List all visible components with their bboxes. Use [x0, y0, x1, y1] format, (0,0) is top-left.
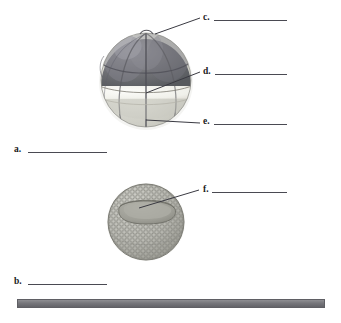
figure-canvas: a. b. c. d. e. f. [0, 0, 341, 323]
label-letter-a: a. [14, 144, 21, 154]
label-letter-b: b. [14, 276, 22, 286]
ground-bar [17, 299, 325, 308]
answer-rule-e[interactable] [214, 124, 287, 125]
leader-line-d [146, 72, 200, 93]
answer-rule-b[interactable] [28, 284, 107, 285]
answer-rule-a[interactable] [28, 152, 107, 153]
leader-line-e [146, 120, 200, 123]
label-letter-c: c. [203, 12, 210, 22]
answer-rule-c[interactable] [214, 20, 287, 21]
leader-line-f [139, 190, 199, 208]
answer-rule-f[interactable] [212, 192, 287, 193]
label-letter-e: e. [203, 116, 210, 126]
leader-lines-layer [0, 0, 341, 323]
label-letter-d: d. [203, 66, 211, 76]
answer-rule-d[interactable] [215, 74, 287, 75]
leader-line-c [155, 18, 200, 34]
label-letter-f: f. [203, 184, 209, 194]
